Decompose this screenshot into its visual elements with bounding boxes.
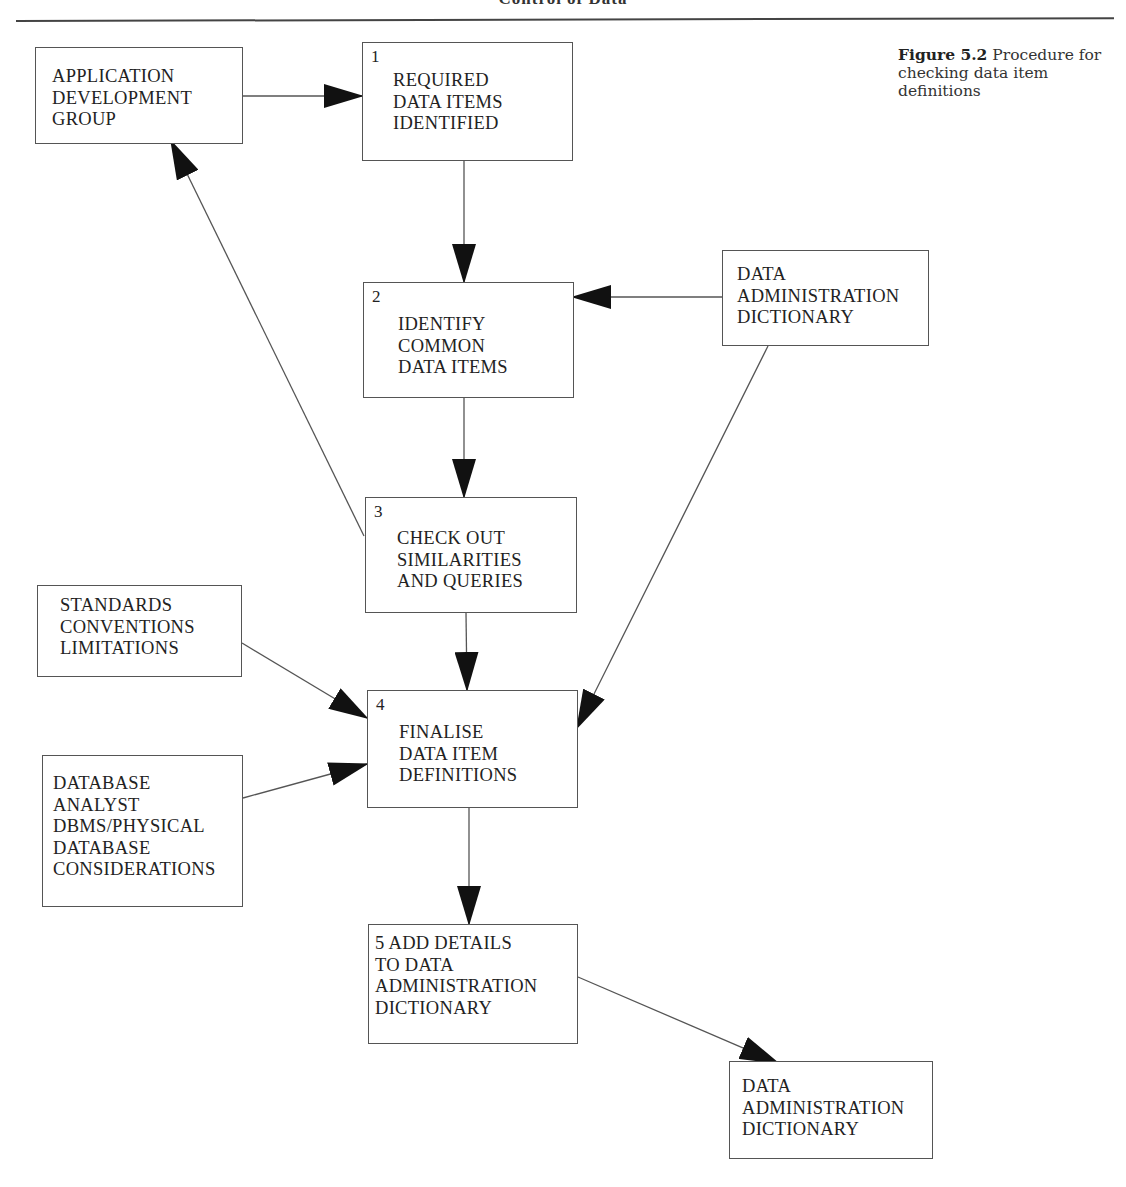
step-number: 1 [371,47,380,67]
step-number: 2 [372,287,381,307]
box-label: IDENTIFY COMMON DATA ITEMS [398,314,508,379]
box-label: REQUIRED DATA ITEMS IDENTIFIED [393,70,503,135]
box-step-2-identify-common: 2 IDENTIFY COMMON DATA ITEMS [363,282,574,398]
arrow-step3-to-step4 [466,613,467,690]
box-database-analyst: DATABASE ANALYST DBMS/PHYSICAL DATABASE … [42,755,243,907]
box-label: 5 ADD DETAILS TO DATA ADMINISTRATION DIC… [375,933,537,1019]
step-number: 4 [376,695,385,715]
box-application-development-group: APPLICATION DEVELOPMENT GROUP [35,47,243,144]
box-step-4-finalise-definitions: 4 FINALISE DATA ITEM DEFINITIONS [367,690,578,808]
box-label: DATA ADMINISTRATION DICTIONARY [737,264,899,329]
box-data-administration-dictionary-top: DATA ADMINISTRATION DICTIONARY [722,250,929,346]
box-step-1-required-data-items: 1 REQUIRED DATA ITEMS IDENTIFIED [362,42,573,161]
arrow-standards-to-step4 [242,643,367,718]
box-standards-conventions-limitations: STANDARDS CONVENTIONS LIMITATIONS [37,585,242,677]
step-number: 5 [375,933,385,953]
step-number: 3 [374,502,383,522]
arrow-step3-to-appdev [171,141,364,536]
box-step-5-add-details: 5 ADD DETAILS TO DATA ADMINISTRATION DIC… [368,924,578,1044]
arrow-step5-to-dad-bottom [578,977,778,1063]
box-label: APPLICATION DEVELOPMENT GROUP [52,66,192,131]
box-label: FINALISE DATA ITEM DEFINITIONS [399,722,517,787]
box-data-administration-dictionary-bottom: DATA ADMINISTRATION DICTIONARY [729,1061,933,1159]
box-label-text: ADD DETAILS TO DATA ADMINISTRATION DICTI… [375,933,537,1018]
box-label: STANDARDS CONVENTIONS LIMITATIONS [60,595,195,660]
box-step-3-check-similarities: 3 CHECK OUT SIMILARITIES AND QUERIES [365,497,577,613]
arrow-dba-to-step4 [243,764,367,798]
box-label: CHECK OUT SIMILARITIES AND QUERIES [397,528,523,593]
box-label: DATA ADMINISTRATION DICTIONARY [742,1076,904,1141]
arrow-dad-to-step4 [577,346,768,728]
box-label: DATABASE ANALYST DBMS/PHYSICAL DATABASE … [53,773,216,881]
